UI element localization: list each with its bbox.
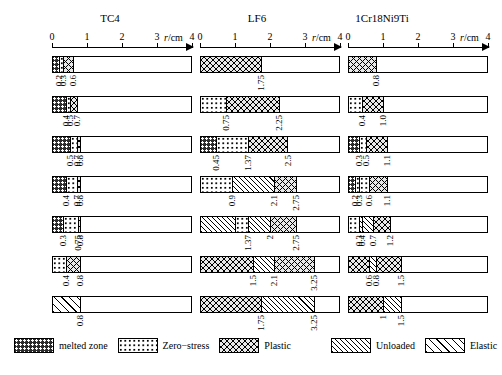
zone-segment-none bbox=[391, 217, 488, 232]
zone-bar bbox=[348, 216, 488, 233]
legend-label-elastic: Elastic bbox=[470, 340, 497, 351]
zone-segment-unloaded bbox=[370, 257, 377, 272]
zone-bar bbox=[348, 176, 488, 193]
boundary-value-label: 0.4 bbox=[358, 235, 367, 246]
zone-segment-plastic bbox=[71, 97, 78, 112]
boundary-value-label: 1.75 bbox=[257, 75, 266, 91]
legend-item-melted: melted zone bbox=[14, 338, 118, 353]
axis-tick-label: 1 bbox=[233, 31, 238, 42]
axis-tick-label: 3 bbox=[451, 31, 456, 42]
boundary-value-label: 0.3 bbox=[59, 75, 68, 86]
zone-segment-plastic bbox=[349, 257, 370, 272]
boundary-value-label: 1.75 bbox=[257, 315, 266, 331]
zone-segment-plastic bbox=[201, 257, 254, 272]
zone-segment-zero bbox=[349, 97, 363, 112]
axis-tick-label: 4 bbox=[486, 31, 491, 42]
legend-swatch-melted bbox=[14, 338, 54, 353]
boundary-value-label: 0.7 bbox=[369, 235, 378, 246]
axis-tick bbox=[122, 43, 123, 48]
axis-tick bbox=[87, 43, 88, 48]
boundary-value-label: 0.4 bbox=[358, 115, 367, 126]
zone-segment-unloaded bbox=[249, 217, 271, 232]
zone-segment-melted bbox=[53, 137, 71, 152]
zone-segment-zero bbox=[201, 97, 227, 112]
zone-segment-zero bbox=[64, 217, 80, 232]
axis-tick-label: 0 bbox=[198, 31, 203, 42]
zone-bar bbox=[348, 256, 488, 273]
column-title-2: 1Cr18Ni9Ti bbox=[308, 12, 456, 24]
boundary-value-label: 1.2 bbox=[386, 235, 395, 246]
boundary-value-label: 0.6 bbox=[69, 75, 78, 86]
zone-segment-none bbox=[384, 97, 488, 112]
zone-segment-melted bbox=[53, 97, 67, 112]
zone-segment-none bbox=[402, 257, 489, 272]
zone-segment-zero bbox=[349, 217, 360, 232]
axis-tick-label: 0 bbox=[346, 31, 351, 42]
zone-segment-plastic bbox=[201, 57, 262, 72]
time-row: 5.5sec.0.60.81.5 bbox=[296, 252, 496, 292]
zone-bar bbox=[348, 56, 488, 73]
axis-tick-label: 0 bbox=[50, 31, 55, 42]
legend-item-unloaded: Unloaded bbox=[331, 338, 425, 353]
column-title-0: TC4 bbox=[36, 12, 184, 24]
boundary-value-label: 0.8 bbox=[76, 155, 85, 166]
boundary-value-label: 2.5 bbox=[284, 155, 293, 166]
radius-axis: 01234r/cm bbox=[348, 34, 496, 52]
axis-unit-label: r/cm bbox=[460, 32, 479, 43]
zone-segment-melted bbox=[201, 137, 217, 152]
boundary-value-label: 0.3 bbox=[59, 235, 68, 246]
zone-segment-plastic bbox=[67, 257, 81, 272]
boundary-value-label: 0.8 bbox=[372, 275, 381, 286]
zone-segment-unloaded bbox=[384, 297, 402, 312]
zone-segment-plastic bbox=[377, 257, 402, 272]
legend-item-plastic: Plastic bbox=[219, 338, 301, 353]
boundary-value-label: 0.7 bbox=[73, 115, 82, 126]
legend-label-plastic: Plastic bbox=[264, 340, 291, 351]
boundary-value-label: 0.4 bbox=[62, 195, 71, 206]
zone-segment-unloaded bbox=[201, 217, 236, 232]
axis-tick-label: 1 bbox=[85, 31, 90, 42]
boundary-value-label: 0.8 bbox=[372, 75, 381, 86]
legend: melted zoneZero−stressPlasticUnloadedEla… bbox=[14, 332, 448, 358]
zone-segment-elastic bbox=[53, 297, 81, 312]
boundary-value-label: 1.37 bbox=[244, 235, 253, 251]
boundary-value-label: 1.5 bbox=[249, 275, 258, 286]
axis-tick bbox=[200, 43, 201, 48]
zone-segment-zero bbox=[71, 137, 78, 152]
boundary-value-label: 2.1 bbox=[270, 275, 279, 286]
boundary-value-label: 0.6 bbox=[365, 195, 374, 206]
zone-segment-plastic bbox=[363, 97, 384, 112]
zone-segment-none bbox=[377, 57, 488, 72]
zone-segment-plastic bbox=[370, 177, 388, 192]
zone-bar bbox=[348, 96, 488, 113]
boundary-value-label: 2.1 bbox=[270, 195, 279, 206]
time-row: 0.45sec.0.20.30.61.1 bbox=[296, 172, 496, 212]
time-row: ∞11.5 bbox=[296, 292, 496, 332]
material-panel: 01234r/cm−5.5sec.0.8−2.5sec.0.41.0t=00.3… bbox=[296, 34, 496, 332]
zone-segment-plastic bbox=[249, 137, 289, 152]
boundary-value-label: 1.5 bbox=[397, 315, 406, 326]
zone-bar bbox=[348, 296, 488, 313]
zone-segment-plastic bbox=[275, 177, 298, 192]
zone-segment-zero bbox=[360, 137, 367, 152]
legend-item-elastic: Elastic bbox=[425, 338, 502, 353]
boundary-value-label: 0.3 bbox=[355, 195, 364, 206]
zone-segment-zero bbox=[217, 137, 249, 152]
axis-tick-label: 2 bbox=[416, 31, 421, 42]
boundary-value-label: 1.5 bbox=[397, 275, 406, 286]
boundary-value-label: 0.8 bbox=[76, 315, 85, 326]
axis-tick bbox=[383, 43, 384, 48]
axis-tick bbox=[235, 43, 236, 48]
zone-segment-plastic bbox=[349, 57, 377, 72]
legend-swatch-zero bbox=[118, 338, 158, 353]
zone-segment-none bbox=[388, 137, 489, 152]
legend-swatch-elastic bbox=[425, 338, 465, 353]
boundary-value-label: 0.4 bbox=[62, 275, 71, 286]
zone-segment-none bbox=[402, 297, 489, 312]
legend-label-zero: Zero−stress bbox=[163, 340, 210, 351]
zone-segment-melted bbox=[349, 137, 360, 152]
time-row: 1.76sec.0.30.40.71.2 bbox=[296, 212, 496, 252]
zone-segment-melted bbox=[53, 57, 60, 72]
zone-segment-zero bbox=[360, 177, 371, 192]
